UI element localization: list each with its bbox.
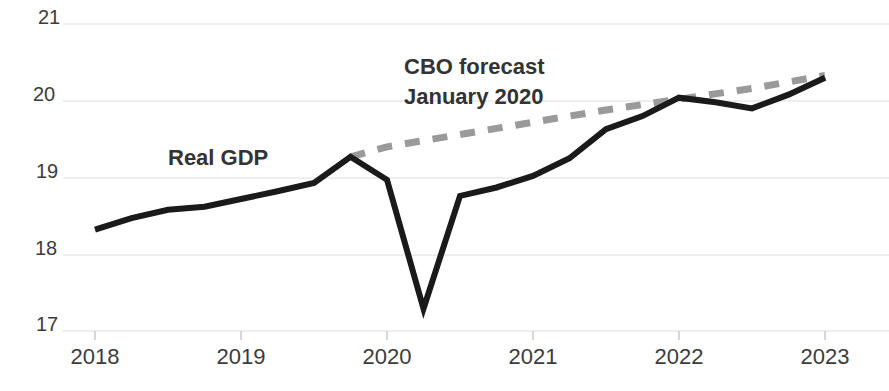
y-axis-label-17: 17 (36, 313, 58, 336)
y-axis-label-21: 21 (38, 6, 60, 29)
x-axis-ticks (95, 331, 825, 340)
series-label-cbo-forecast-line2: January 2020 (404, 82, 545, 112)
series-label-cbo-forecast: CBO forecast January 2020 (404, 52, 545, 112)
y-axis-label-18: 18 (35, 237, 57, 260)
x-axis-label-2023: 2023 (801, 344, 850, 370)
series-line-real-gdp (95, 78, 825, 309)
series-label-real-gdp: Real GDP (168, 143, 268, 173)
x-axis-label-2019: 2019 (217, 344, 266, 370)
x-axis-label-2018: 2018 (71, 344, 120, 370)
x-axis-label-2022: 2022 (655, 344, 704, 370)
y-axis-label-19: 19 (36, 160, 58, 183)
chart-container: 21 20 19 18 17 2018 2019 2020 2021 2022 … (0, 0, 889, 391)
x-axis-label-2021: 2021 (509, 344, 558, 370)
x-axis-label-2020: 2020 (363, 344, 412, 370)
y-axis-label-20: 20 (33, 83, 55, 106)
series-label-cbo-forecast-line1: CBO forecast (404, 52, 545, 82)
